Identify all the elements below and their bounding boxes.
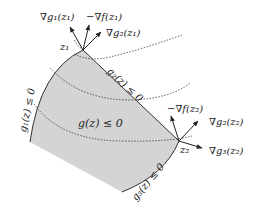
z2-label: z₂ [180,145,189,155]
neg-grad-f-z2-label: −∇f(z₂) [167,104,203,114]
grad-g2-z1-label: ∇g₂(z₁) [106,28,140,38]
grad-g2-z2-arrow [179,121,198,141]
grad-g2-z1-arrow [83,32,101,50]
grad-g3-z2-label: ∇g₃(z₂) [209,146,243,156]
diagram-canvas: ∇g₁(z₁) −∇f(z₁) ∇g₂(z₁) z₁ g₂(z) ≤ 0 g₁(… [0,0,256,207]
grad-g1-z1-label: ∇g₁(z₁) [40,12,74,22]
neg-grad-f-z1-label: −∇f(z₁) [86,12,122,22]
neg-grad-f-z1-arrow [83,25,89,50]
region-label: g(z) ≤ 0 [78,118,123,129]
level-curve-1 [74,35,182,59]
grad-g1-z1-arrow [70,27,83,50]
z1-label: z₁ [60,42,69,52]
grad-g2-z2-label: ∇g₂(z₂) [209,117,243,127]
